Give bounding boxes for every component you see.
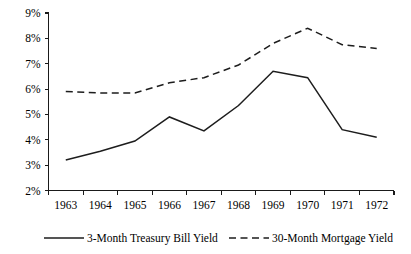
x-tick-label: 1971	[331, 199, 354, 211]
x-tick-label: 1969	[262, 199, 285, 211]
x-tick-label: 1963	[54, 199, 77, 211]
x-tick-label: 1967	[192, 199, 215, 211]
legend-label-mortgage: 30-Month Mortgage Yield	[272, 232, 393, 245]
x-tick-label: 1966	[158, 199, 181, 211]
y-tick-label: 4%	[25, 134, 41, 146]
x-tick-label: 1965	[123, 199, 146, 211]
line-chart: 2%3%4%5%6%7%8%9% 19631964196519661967196…	[0, 0, 411, 254]
chart-background	[0, 0, 411, 254]
y-tick-label: 8%	[25, 32, 41, 44]
chart-canvas: 2%3%4%5%6%7%8%9% 19631964196519661967196…	[0, 0, 411, 254]
y-tick-label: 5%	[25, 108, 41, 120]
x-tick-label: 1972	[365, 199, 388, 211]
x-tick-label: 1964	[89, 199, 112, 211]
x-tick-label: 1968	[227, 199, 250, 211]
y-tick-label: 3%	[25, 159, 41, 171]
y-tick-label: 9%	[25, 7, 41, 19]
x-tick-label: 1970	[296, 199, 319, 211]
y-tick-label: 6%	[25, 83, 41, 95]
y-tick-label: 2%	[25, 185, 41, 197]
y-tick-label: 7%	[25, 58, 41, 70]
legend-label-treasury-bill: 3-Month Treasury Bill Yield	[87, 232, 218, 245]
